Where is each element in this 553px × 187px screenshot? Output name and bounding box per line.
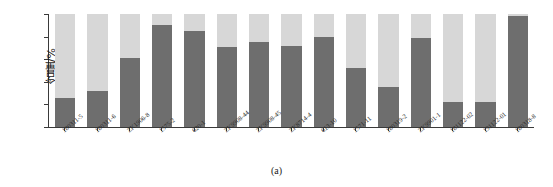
bar-group[interactable]: [475, 14, 495, 127]
bar-group[interactable]: [152, 14, 172, 127]
y-tick-mark: [44, 14, 48, 15]
bar-group[interactable]: [55, 14, 75, 127]
y-tick-mark: [44, 104, 48, 105]
bar-segment[interactable]: [281, 46, 301, 127]
bar-group[interactable]: [281, 14, 301, 127]
bar-group[interactable]: [378, 14, 398, 127]
bar-segment[interactable]: [87, 14, 107, 91]
bar-segment[interactable]: [346, 14, 366, 68]
figure-panel-a: 含量/% 020406080100 180311-5180311-6ZK1906…: [0, 0, 553, 187]
bar-segment[interactable]: [314, 37, 334, 127]
bar-segment[interactable]: [217, 47, 237, 127]
bar-group[interactable]: [249, 14, 269, 127]
bar-segment[interactable]: [249, 42, 269, 127]
bar-segment[interactable]: [249, 14, 269, 42]
y-tick-mark: [44, 127, 48, 128]
bar-group[interactable]: [314, 14, 334, 127]
bar-segment[interactable]: [217, 14, 237, 47]
bar-segment[interactable]: [120, 58, 140, 127]
bar-group[interactable]: [411, 14, 431, 127]
y-tick-mark: [44, 37, 48, 38]
bar-segment[interactable]: [281, 14, 301, 46]
bar-segment[interactable]: [152, 25, 172, 127]
y-tick-mark: [44, 59, 48, 60]
bar-segment[interactable]: [411, 38, 431, 127]
bar-segment[interactable]: [314, 14, 334, 37]
bar-group[interactable]: [184, 14, 204, 127]
bar-group[interactable]: [508, 14, 528, 127]
bar-segment[interactable]: [184, 31, 204, 127]
bar-group[interactable]: [217, 14, 237, 127]
bar-group[interactable]: [120, 14, 140, 127]
bar-segment[interactable]: [411, 14, 431, 38]
bar-segment[interactable]: [55, 14, 75, 98]
bar-segment[interactable]: [508, 14, 528, 16]
bar-segment[interactable]: [120, 14, 140, 58]
bar-segment[interactable]: [475, 14, 495, 102]
bar-segment[interactable]: [184, 14, 204, 31]
bar-segment[interactable]: [378, 14, 398, 87]
figure-caption: (a): [0, 166, 553, 176]
bar-group[interactable]: [87, 14, 107, 127]
bar-segment[interactable]: [152, 14, 172, 25]
y-tick-mark: [44, 82, 48, 83]
bar-segment[interactable]: [508, 16, 528, 127]
bar-group[interactable]: [346, 14, 366, 127]
bar-group[interactable]: [443, 14, 463, 127]
plot-area: 含量/% 020406080100: [48, 14, 534, 127]
bar-series-container: [49, 14, 534, 127]
bar-segment[interactable]: [443, 14, 463, 102]
